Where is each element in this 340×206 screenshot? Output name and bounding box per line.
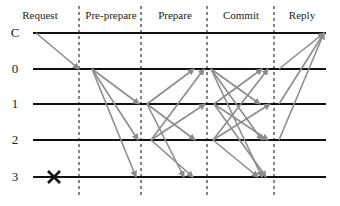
node-label-0: 0	[8, 61, 22, 77]
phase-label-commit: Commit	[214, 9, 268, 21]
message-arrow-prepare	[151, 140, 193, 177]
node-label-2: 2	[8, 132, 22, 148]
node-label-1: 1	[8, 96, 22, 112]
node-label-3: 3	[8, 169, 22, 185]
message-arrow-reply	[279, 33, 324, 140]
message-arrow-commit	[211, 69, 260, 104]
message-arrow-prepare	[151, 104, 205, 140]
pbft-diagram: Request Pre-prepare Prepare Commit Reply…	[0, 0, 340, 206]
phase-label-reply: Reply	[280, 9, 324, 21]
message-arrow-prepare	[147, 69, 194, 104]
node-label-client: C	[8, 25, 22, 41]
message-arrow-commit	[213, 140, 258, 177]
diagram-canvas	[0, 0, 340, 206]
phase-boundaries	[79, 6, 274, 196]
message-arrow-request	[36, 33, 79, 69]
phase-label-pre-prepare: Pre-prepare	[82, 9, 140, 21]
node-timelines	[33, 33, 326, 177]
phase-label-prepare: Prepare	[148, 9, 202, 21]
phase-label-request: Request	[20, 9, 60, 21]
